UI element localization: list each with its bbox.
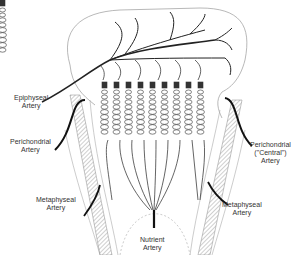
label-line: Metaphyseal [222,201,262,209]
label-line: Epiphyseal [14,94,48,102]
metaphyseal-loops [106,140,204,210]
epiphyseal-artery-vessel [42,12,232,102]
label-line: Artery [250,157,291,165]
label-line: Nutrient [140,236,165,244]
label-line: ("Central") [250,149,291,157]
label-epiphyseal-artery: Epiphyseal Artery [14,94,48,110]
label-line: Perichondrial [10,138,51,146]
label-line: Artery [14,102,48,110]
label-nutrient-artery: Nutrient Artery [140,236,165,252]
label-metaphyseal-artery-left: Metaphyseal Artery [36,196,76,212]
perichondrial-ring-left [70,95,112,255]
perichondrial-ring-right [198,100,242,255]
label-line: Artery [222,209,262,217]
label-line: Artery [10,146,51,154]
label-line: Perichondrial [250,141,291,149]
label-line: Artery [36,204,76,212]
label-perichondrial-artery-right: Perichondrial ("Central") Artery [250,141,291,165]
label-line: Artery [140,244,165,252]
label-metaphyseal-artery-right: Metaphyseal Artery [222,201,262,217]
label-perichondrial-artery-left: Perichondrial Artery [10,138,51,154]
epiphysis-outline [67,8,246,118]
label-line: Metaphyseal [36,196,76,204]
